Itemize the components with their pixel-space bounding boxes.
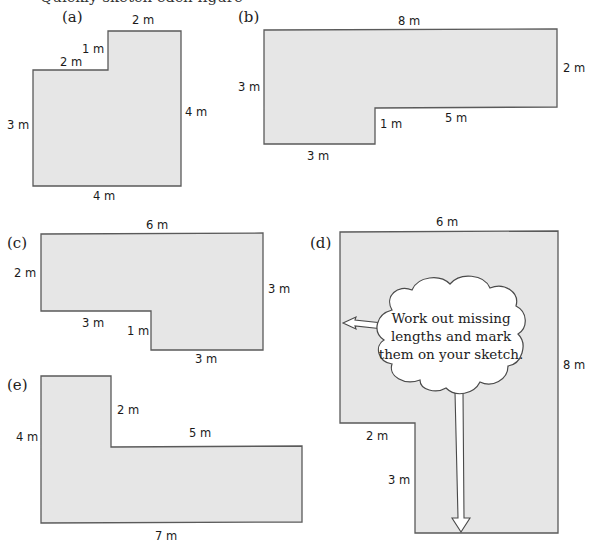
dim-top: 6 m: [146, 218, 168, 232]
dim-bottom: 3 m: [195, 352, 217, 366]
dim-right: 8 m: [563, 358, 585, 372]
dim-top: 2 m: [132, 13, 154, 27]
dim-step-height: 1 m: [380, 117, 402, 131]
callout-line-3: them on your sketch.: [379, 346, 524, 362]
figure-label: (c): [7, 234, 27, 252]
dim-top: 6 m: [436, 215, 458, 229]
dim-step-width: 5 m: [189, 426, 211, 440]
dim-bottom: 7 m: [155, 529, 177, 543]
l-shape-c: [41, 233, 263, 350]
figure-a: (a) 2 m 1 m 2 m 3 m 4 m 4 m: [7, 8, 207, 203]
dim-bottom: 4 m: [93, 189, 115, 203]
l-shape-b: [264, 29, 557, 144]
figure-c: (c) 6 m 2 m 3 m 3 m 1 m 3 m: [7, 218, 290, 366]
dim-top: 8 m: [398, 14, 420, 28]
figure-label: (d): [310, 234, 331, 252]
dim-left: 4 m: [16, 430, 38, 444]
dim-right: 2 m: [563, 61, 585, 75]
dim-step-height: 2 m: [117, 403, 139, 417]
dim-left: 3 m: [238, 80, 260, 94]
dim-bottom: 3 m: [307, 149, 329, 163]
dim-right: 4 m: [185, 105, 207, 119]
cut-off-instruction: Quickly sketch each figure: [40, 0, 243, 6]
l-shape-a: [33, 31, 181, 186]
figure-label: (b): [238, 8, 259, 26]
figure-d: (d) 6 m 8 m 2 m 3 m Work out missing len…: [310, 215, 585, 533]
dim-step-width: 5 m: [445, 111, 467, 125]
figure-e: (e) 2 m 4 m 5 m 7 m: [7, 376, 302, 543]
callout-line-2: lengths and mark: [391, 328, 512, 344]
dim-step-height: 1 m: [127, 324, 149, 338]
dim-right: 3 m: [268, 282, 290, 296]
dim-step-width: 2 m: [60, 55, 82, 69]
dim-left: 2 m: [14, 266, 36, 280]
diagram-canvas: Quickly sketch each figure (a) 2 m 1 m 2…: [0, 0, 592, 544]
dim-step-height: 1 m: [82, 42, 104, 56]
dim-step-width: 3 m: [82, 316, 104, 330]
dim-step-width: 2 m: [366, 429, 388, 443]
figure-label: (e): [7, 376, 28, 394]
dim-step-height: 3 m: [388, 473, 410, 487]
figure-label: (a): [62, 8, 83, 26]
l-shape-e: [41, 376, 302, 523]
callout-line-1: Work out missing: [391, 310, 511, 326]
figure-b: (b) 8 m 3 m 2 m 1 m 5 m 3 m: [238, 8, 585, 163]
dim-left: 3 m: [7, 118, 29, 132]
